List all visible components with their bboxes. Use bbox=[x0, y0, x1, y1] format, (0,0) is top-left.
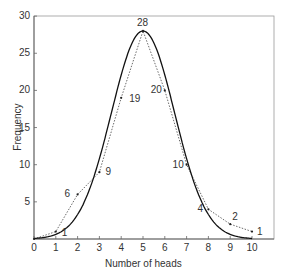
x-tick-label: 7 bbox=[177, 243, 197, 253]
point-label: 4 bbox=[197, 204, 203, 214]
x-tick-label: 0 bbox=[24, 243, 44, 253]
x-tick-label: 4 bbox=[111, 243, 131, 253]
x-tick-label: 2 bbox=[68, 243, 88, 253]
point-label: 2 bbox=[232, 212, 238, 222]
x-tick-label: 9 bbox=[220, 243, 240, 253]
point-label: 1 bbox=[62, 228, 68, 238]
y-tick-label: 20 bbox=[6, 85, 30, 95]
y-tick-label: 30 bbox=[6, 11, 30, 21]
plot-frame bbox=[34, 16, 274, 239]
y-tick-label: 10 bbox=[6, 160, 30, 170]
x-axis-label: Number of heads bbox=[105, 259, 182, 269]
point-label: 6 bbox=[65, 189, 71, 199]
x-tick-label: 3 bbox=[89, 243, 109, 253]
x-tick-label: 8 bbox=[198, 243, 218, 253]
smooth-curve-line bbox=[34, 31, 252, 239]
point-label: 9 bbox=[105, 167, 111, 177]
data-points bbox=[33, 30, 253, 240]
point-label: 1 bbox=[257, 227, 263, 237]
x-tick-label: 5 bbox=[133, 243, 153, 253]
x-tick-label: 10 bbox=[242, 243, 262, 253]
y-axis-label: Frequency bbox=[13, 97, 23, 157]
observed-series-line bbox=[34, 31, 252, 239]
y-tick-label: 5 bbox=[6, 197, 30, 207]
x-tick-label: 6 bbox=[155, 243, 175, 253]
point-label: 19 bbox=[129, 94, 140, 104]
axis-ticks bbox=[34, 16, 252, 239]
point-label: 10 bbox=[173, 160, 184, 170]
y-tick-label: 25 bbox=[6, 48, 30, 58]
point-label: 28 bbox=[137, 18, 148, 28]
x-tick-label: 1 bbox=[46, 243, 66, 253]
chart-canvas bbox=[0, 0, 281, 277]
point-label: 20 bbox=[151, 85, 162, 95]
